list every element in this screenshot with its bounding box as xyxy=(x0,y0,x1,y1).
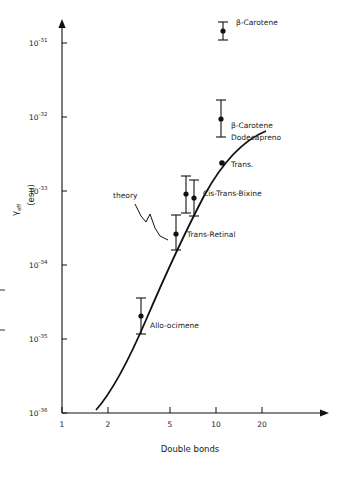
x-tick-label-2: 5 xyxy=(168,420,173,429)
y-axis-unit: (esu) xyxy=(26,184,36,206)
trans-retinal-label: Cis-Trans-Bixine xyxy=(203,189,262,198)
marker-circle xyxy=(183,191,188,196)
x-axis-title: Double bonds xyxy=(161,444,220,454)
marker-circle xyxy=(173,231,178,236)
cis-trans-bixine-label: Trans. xyxy=(230,160,253,169)
y-axis-title: γeff xyxy=(10,204,22,216)
y-ticks xyxy=(62,43,67,413)
y-tick-labels: 10-31 10-32 10-33 10-34 10-35 10-36 xyxy=(29,37,48,418)
x-tick-labels: 1 2 5 10 20 xyxy=(60,420,267,429)
y-tick-label-4: 10-35 xyxy=(29,333,48,344)
trans-beta-carotene-label-2: Dodecapreno xyxy=(231,133,282,142)
chart-container: 10-31 10-32 10-33 10-34 10-35 10-36 1 2 … xyxy=(0,0,358,480)
x-ticks xyxy=(62,407,262,413)
chart-svg: 10-31 10-32 10-33 10-34 10-35 10-36 1 2 … xyxy=(0,0,358,480)
marker-circle xyxy=(191,195,196,200)
marker-circle xyxy=(219,160,225,166)
y-tick-exp-3: -34 xyxy=(39,259,48,265)
datapoint-trans-beta-carotene xyxy=(216,100,226,137)
y-tick-exp-1: -32 xyxy=(39,111,48,117)
y-axis-title-group: γeff xyxy=(10,204,22,216)
x-tick-label-3: 10 xyxy=(211,420,221,429)
y-tick-exp-5: -36 xyxy=(39,407,48,413)
theory-leader-line xyxy=(135,204,168,240)
legend: β-Carotene xyxy=(218,18,278,40)
y-tick-label-0: 10-31 xyxy=(29,37,48,48)
y-axis-arrow xyxy=(58,19,65,28)
x-tick-label-1: 2 xyxy=(106,420,111,429)
y-axis-title-sub: eff xyxy=(16,204,22,211)
theory-curve xyxy=(96,131,266,410)
y-tick-label-3: 10-34 xyxy=(29,259,48,270)
marker-circle xyxy=(218,116,223,121)
x-tick-label-4: 20 xyxy=(257,420,267,429)
y-tick-exp-4: -35 xyxy=(39,333,48,339)
datapoint-allo-ocimene xyxy=(136,298,146,334)
y-tick-exp-0: -31 xyxy=(39,37,48,43)
datapoint-trans-retinal-b xyxy=(189,180,199,216)
datapoint-cis-trans-bixine xyxy=(219,160,225,166)
trans-retinol-label: Trans-Retinal xyxy=(186,230,235,239)
legend-marker-circle xyxy=(220,28,225,33)
x-axis-arrow xyxy=(320,409,329,416)
trans-beta-carotene-label-1: β-Carotene xyxy=(231,121,273,130)
legend-label-1: β-Carotene xyxy=(236,18,278,27)
allo-ocimene-label: Allo-ocimene xyxy=(150,321,199,330)
y-axis-unit-group: (esu) xyxy=(26,184,36,206)
y-tick-exp-2: -33 xyxy=(39,185,48,191)
datapoint-trans-retinal-a xyxy=(181,176,191,213)
y-tick-label-1: 10-32 xyxy=(29,111,48,122)
x-tick-label-0: 1 xyxy=(60,420,65,429)
y-tick-label-5: 10-36 xyxy=(29,407,48,418)
theory-curve-label: theory xyxy=(113,191,138,200)
marker-circle xyxy=(138,313,143,318)
